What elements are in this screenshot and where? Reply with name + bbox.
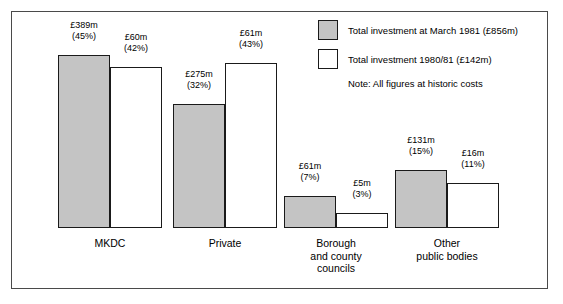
bar-mkdc-1980-81 (110, 67, 162, 228)
bar-label-borough-march1981: £61m (7%) (280, 161, 340, 182)
legend-item-march-1981: Total investment at March 1981 (£856m) (318, 20, 543, 40)
bar-other-march1981 (395, 170, 447, 228)
legend-item-1980-81: Total investment 1980/81 (£142m) (318, 49, 543, 69)
legend-swatch-white-icon (318, 49, 338, 69)
category-label-private: Private (185, 237, 265, 250)
bar-label-private-1980-81: £61m (43%) (221, 28, 281, 49)
chart-legend: Total investment at March 1981 (£856m) T… (318, 20, 543, 89)
bar-label-mkdc-march1981: £389m (45%) (54, 20, 114, 41)
category-label-other-public-bodies: Other public bodies (407, 237, 487, 262)
bar-label-other-march1981: £131m (15%) (391, 135, 451, 156)
bar-other-1980-81 (447, 183, 499, 228)
legend-swatch-grey-icon (318, 20, 338, 40)
legend-label-march-1981: Total investment at March 1981 (£856m) (348, 20, 518, 36)
bar-mkdc-march1981 (58, 55, 110, 228)
bar-label-mkdc-1980-81: £60m (42%) (106, 32, 166, 53)
bar-label-private-march1981: £275m (32%) (169, 69, 229, 90)
bar-label-borough-1980-81: £5m (3%) (332, 178, 392, 199)
legend-label-1980-81: Total investment 1980/81 (£142m) (348, 49, 492, 65)
category-label-mkdc: MKDC (70, 237, 150, 250)
bar-chart: £389m (45%) £60m (42%) £275m (32%) £61m … (0, 0, 563, 304)
chart-note: Note: All figures at historic costs (348, 78, 543, 89)
category-label-borough-and-county-councils: Borough and county councils (296, 237, 376, 275)
bar-private-1980-81 (225, 63, 277, 228)
bar-borough-1980-81 (336, 213, 388, 228)
bar-private-march1981 (173, 104, 225, 228)
bar-label-other-1980-81: £16m (11%) (443, 148, 503, 169)
bar-borough-march1981 (284, 196, 336, 228)
